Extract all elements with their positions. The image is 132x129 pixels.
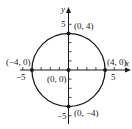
point-label-bottom: (0, −4): [74, 108, 99, 118]
point-top: [67, 31, 71, 35]
y-axis-arrow-icon: [66, 7, 71, 13]
point-label-origin: (0, 0): [47, 74, 67, 84]
point-label-top: (0, 4): [74, 21, 94, 31]
x-tick-label-pos5: 5: [111, 72, 116, 82]
point-left: [30, 68, 34, 72]
y-axis-label: y: [60, 4, 65, 14]
x-tick-label-neg5: −5: [16, 72, 26, 82]
point-right: [103, 68, 107, 72]
point-origin: [67, 68, 71, 72]
y-tick-label-neg5: −5: [57, 111, 67, 121]
point-bottom: [67, 105, 71, 109]
x-axis-arrow-icon: [125, 68, 131, 73]
point-label-left: (−4, 0): [6, 57, 31, 67]
coordinate-plane: y x 5 −5 −5 5 (0, 4) (4, 0) (0, −4) (−4,…: [0, 0, 132, 129]
y-tick-label-pos5: 5: [61, 19, 66, 29]
point-label-right: (4, 0): [107, 57, 127, 67]
